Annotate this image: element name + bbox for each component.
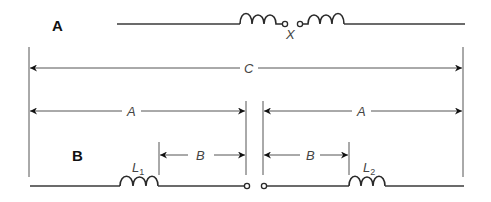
part-a-left-coil — [240, 14, 282, 25]
dimension-a-left-label: A — [126, 104, 136, 119]
dimension-a-right-label: A — [356, 104, 366, 119]
part-a-right-terminal — [297, 21, 302, 26]
dimension-b-left-label: B — [196, 148, 205, 163]
dimension-b-right-label: B — [306, 148, 315, 163]
dimension-a-right: A — [264, 104, 462, 119]
antenna-dimension-diagram: A X C A A B B B — [0, 0, 491, 202]
part-a-left-terminal — [282, 21, 287, 26]
inductor-l2-coil — [349, 176, 385, 186]
dimension-a-left: A — [30, 104, 245, 119]
inductor-l1-coil — [120, 176, 158, 186]
dimension-b-left: B — [160, 148, 245, 163]
inductor-l2-label: L2 — [363, 160, 375, 177]
part-a-circuit — [117, 14, 465, 27]
dimension-c: C — [30, 61, 462, 76]
gap-x-label: X — [285, 27, 296, 42]
part-b-circuit — [30, 176, 464, 188]
part-a-right-coil — [303, 14, 344, 25]
part-b-label: B — [72, 147, 83, 164]
inductor-l1-label: L1 — [132, 160, 144, 177]
dimension-b-right: B — [264, 148, 348, 163]
dimension-c-label: C — [244, 61, 254, 76]
part-b-left-terminal — [244, 183, 249, 188]
part-a-label: A — [52, 17, 63, 34]
part-b-right-terminal — [261, 183, 266, 188]
